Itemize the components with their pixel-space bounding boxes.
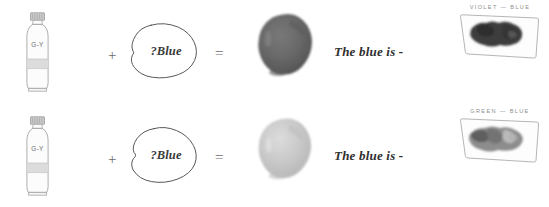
unknown-blue-label: ?Blue — [128, 22, 200, 80]
chart-sheet: G-Y + ?Blue = — [0, 0, 549, 207]
swatch-title: VIOLET — BLUE — [452, 4, 548, 10]
mix-row-green-blue: G-Y + ?Blue = — [0, 104, 549, 207]
paint-tube-icon: G-Y — [24, 116, 51, 196]
colour-swatch-card: GREEN — BLUE — [452, 108, 548, 170]
paint-splotch-icon — [256, 116, 318, 190]
unknown-blue-label: ?Blue — [128, 126, 200, 184]
unknown-blue-blob: ?Blue — [128, 126, 200, 184]
plus-operator: + — [108, 152, 116, 167]
tube-label: G-Y — [31, 145, 44, 152]
tube-label: G-Y — [31, 41, 44, 48]
plus-operator: + — [108, 48, 116, 63]
swatch-title: GREEN — BLUE — [452, 108, 548, 114]
equals-operator: = — [215, 46, 223, 61]
colour-swatch-card: VIOLET — BLUE — [452, 4, 548, 66]
row-caption: The blue is - — [334, 148, 403, 164]
unknown-blue-blob: ?Blue — [128, 22, 200, 80]
equals-operator: = — [215, 150, 223, 165]
mix-row-violet-blue: G-Y + ?Blue = — [0, 0, 549, 103]
paint-tube-icon: G-Y — [24, 12, 51, 92]
row-caption: The blue is - — [334, 44, 403, 60]
paint-splotch-icon — [256, 12, 318, 86]
